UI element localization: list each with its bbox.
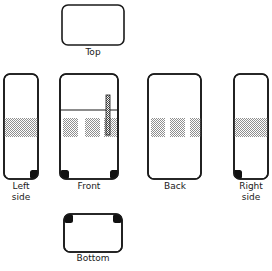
right-side-vent-band: [234, 118, 268, 137]
view-left-side: [4, 74, 39, 179]
view-label-back: Back: [145, 181, 205, 192]
view-right-side: [233, 74, 268, 179]
left-side-vent-band: [4, 118, 38, 137]
back-vent-patch: [190, 118, 201, 137]
view-back: [148, 74, 201, 179]
front-handle: [106, 95, 110, 135]
front-vent-patch: [85, 118, 100, 137]
back-vent-patch: [170, 118, 185, 137]
view-front: [60, 74, 119, 179]
front-vent-patch: [63, 118, 78, 137]
view-label-left-side: Left side: [4, 181, 38, 202]
view-label-front: Front: [56, 181, 122, 192]
back-vent-patch: [151, 118, 165, 137]
view-top: [62, 5, 124, 45]
view-bottom: [64, 214, 122, 252]
view-label-bottom: Bottom: [60, 253, 126, 264]
view-label-right-side: Right side: [234, 181, 268, 202]
orthographic-projection-diagram: [0, 0, 272, 271]
top-outline: [62, 5, 124, 45]
view-label-top: Top: [62, 47, 124, 58]
